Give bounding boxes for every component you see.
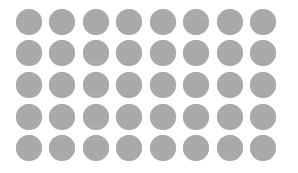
circle-dot bbox=[49, 40, 75, 66]
circle-dot bbox=[16, 135, 42, 161]
circle-dot bbox=[83, 40, 109, 66]
circle-dot bbox=[183, 104, 209, 130]
circle-dot bbox=[183, 135, 209, 161]
circle-dot bbox=[49, 72, 75, 98]
circle-dot bbox=[150, 135, 176, 161]
circle-dot bbox=[16, 72, 42, 98]
circle-dot bbox=[16, 40, 42, 66]
circle-dot bbox=[49, 135, 75, 161]
circle-dot bbox=[83, 135, 109, 161]
circle-dot bbox=[217, 9, 243, 35]
circle-dot bbox=[116, 9, 142, 35]
circle-dot bbox=[250, 9, 276, 35]
circle-dot bbox=[217, 104, 243, 130]
circle-dot bbox=[250, 104, 276, 130]
circle-dot bbox=[83, 9, 109, 35]
circle-dot bbox=[150, 72, 176, 98]
circle-dot bbox=[250, 135, 276, 161]
circle-dot bbox=[150, 40, 176, 66]
circle-dot bbox=[83, 104, 109, 130]
circle-dot bbox=[116, 135, 142, 161]
dot-grid bbox=[0, 0, 298, 173]
circle-dot bbox=[16, 104, 42, 130]
circle-dot bbox=[183, 40, 209, 66]
circle-dot bbox=[116, 40, 142, 66]
circle-dot bbox=[217, 72, 243, 98]
circle-dot bbox=[83, 72, 109, 98]
circle-dot bbox=[116, 104, 142, 130]
circle-dot bbox=[183, 9, 209, 35]
circle-dot bbox=[150, 104, 176, 130]
circle-dot bbox=[250, 40, 276, 66]
circle-dot bbox=[16, 9, 42, 35]
circle-dot bbox=[217, 40, 243, 66]
circle-dot bbox=[150, 9, 176, 35]
circle-dot bbox=[217, 135, 243, 161]
circle-dot bbox=[183, 72, 209, 98]
circle-dot bbox=[116, 72, 142, 98]
circle-dot bbox=[49, 9, 75, 35]
circle-dot bbox=[49, 104, 75, 130]
circle-dot bbox=[250, 72, 276, 98]
